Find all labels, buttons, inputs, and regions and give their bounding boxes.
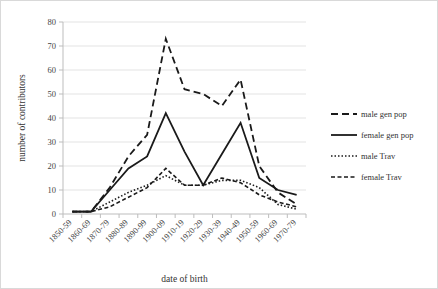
y-tick-label: 40 bbox=[48, 113, 57, 123]
y-tick-label: 50 bbox=[48, 89, 57, 99]
y-tick-label: 10 bbox=[48, 185, 57, 195]
line-chart: 010203040506070801850-591860-691870-7918… bbox=[1, 1, 438, 289]
x-axis-title: date of birth bbox=[161, 274, 208, 284]
chart-figure: 010203040506070801850-591860-691870-7918… bbox=[0, 0, 438, 289]
legend: male gen popfemale gen popmale Travfemal… bbox=[331, 109, 413, 182]
legend-label-1: female gen pop bbox=[361, 130, 413, 140]
legend-label-3: female Trav bbox=[361, 172, 403, 182]
y-tick-label: 0 bbox=[52, 209, 56, 219]
y-tick-label: 20 bbox=[48, 161, 57, 171]
y-tick-label: 60 bbox=[48, 65, 57, 75]
y-tick-label: 80 bbox=[48, 17, 57, 27]
legend-label-2: male Trav bbox=[361, 151, 396, 161]
y-tick-label: 30 bbox=[48, 137, 57, 147]
y-axis-title: number of contributors bbox=[17, 74, 27, 162]
legend-label-0: male gen pop bbox=[361, 109, 407, 119]
y-tick-label: 70 bbox=[48, 41, 57, 51]
